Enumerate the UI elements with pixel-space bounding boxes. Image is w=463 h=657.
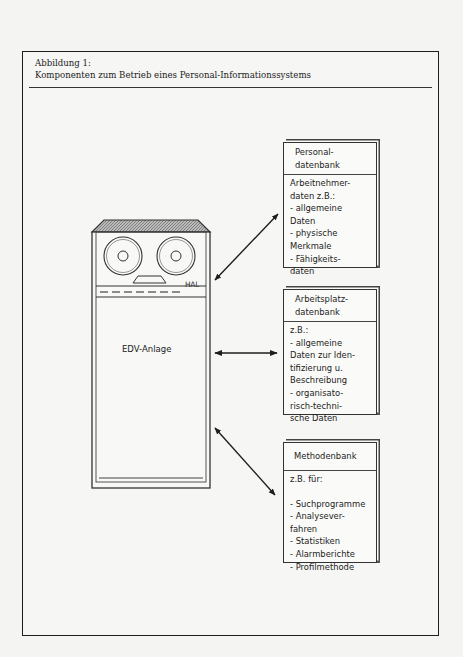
box-personaldatenbank: Personal- datenbank Arbeitnehmer- daten …	[283, 142, 377, 268]
box-methodenbank: Methodenbank z.B. für: - Suchprogramme -…	[283, 442, 377, 563]
box-arbeitsplatzdatenbank: Arbeitsplatz- datenbank z.B.: - allgemei…	[283, 289, 377, 415]
box-title: Arbeitsplatz- datenbank	[284, 290, 376, 322]
box-body: Arbeitnehmer- daten z.B.: - allgemeine D…	[284, 175, 376, 280]
box-body: z.B. für: - Suchprogramme - Analysever- …	[284, 471, 376, 576]
box-title: Personal- datenbank	[284, 143, 376, 175]
arrow-to-methodenbank	[215, 428, 275, 495]
box-title: Methodenbank	[284, 443, 376, 471]
arrow-to-personaldatenbank	[215, 214, 278, 280]
connection-arrows	[0, 0, 463, 657]
box-body: z.B.: - allgemeine Daten zur Iden- tifiz…	[284, 322, 376, 427]
